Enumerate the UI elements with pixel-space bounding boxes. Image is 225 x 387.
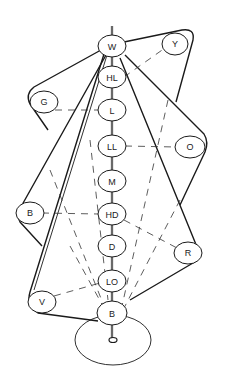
svg-text:Y: Y	[172, 39, 178, 49]
dash-interior-1	[50, 170, 104, 306]
node-red: R	[174, 242, 202, 264]
svg-text:W: W	[108, 42, 117, 52]
dash-v-lo	[54, 283, 100, 296]
svg-text:B: B	[27, 208, 33, 218]
svg-text:LL: LL	[107, 142, 117, 152]
edge-w-right	[125, 55, 207, 205]
node-green: G	[30, 91, 58, 113]
base-pivot-icon	[109, 338, 117, 343]
edge-w-v-double	[34, 55, 107, 290]
svg-text:M: M	[108, 177, 116, 187]
node-black: B	[97, 301, 127, 325]
node-hl: HL	[98, 66, 126, 88]
node-violet: V	[28, 291, 56, 313]
svg-text:G: G	[40, 97, 47, 107]
dash-b-hd	[42, 213, 99, 214]
node-m: M	[98, 170, 126, 192]
dash-interior-2	[122, 100, 168, 306]
node-hd: HD	[98, 203, 126, 225]
svg-text:L: L	[109, 106, 114, 116]
dash-ll-o	[125, 146, 176, 147]
axis-nodes: W HL L LL M HD D LO	[97, 35, 127, 325]
color-solid-diagram: W HL L LL M HD D LO	[0, 0, 225, 387]
svg-text:D: D	[109, 242, 116, 252]
node-l: L	[98, 99, 126, 121]
dash-hd-r	[124, 220, 177, 248]
dash-interior-3	[124, 200, 180, 308]
svg-text:R: R	[185, 248, 192, 258]
node-ll: LL	[98, 135, 126, 157]
node-orange: O	[175, 136, 205, 158]
node-yellow: Y	[162, 33, 188, 55]
svg-text:B: B	[109, 309, 115, 319]
node-blue: B	[16, 202, 44, 224]
plane-w-g	[28, 50, 101, 130]
svg-text:LO: LO	[106, 277, 118, 287]
svg-text:O: O	[186, 142, 193, 152]
svg-text:HL: HL	[106, 73, 118, 83]
svg-text:V: V	[39, 297, 45, 307]
svg-text:HD: HD	[106, 210, 119, 220]
node-d: D	[98, 235, 126, 257]
dash-hl-y	[124, 48, 165, 77]
node-ld: LO	[98, 270, 126, 292]
node-w: W	[98, 35, 126, 57]
